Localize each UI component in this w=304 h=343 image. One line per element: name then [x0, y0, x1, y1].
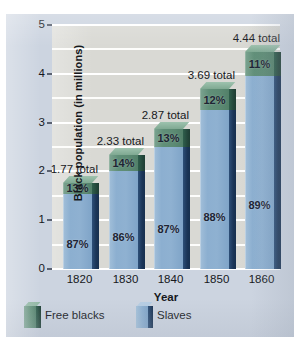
bar-face-side — [92, 183, 99, 194]
swatch-face-front — [24, 306, 36, 328]
y-tick-mark — [47, 122, 52, 124]
bar-label-slaves-percent: 87% — [157, 223, 179, 235]
bar-label-total: 2.87 total — [142, 109, 189, 121]
bar-label-free-blacks-percent: 14% — [112, 157, 134, 169]
bar-face-side — [274, 52, 281, 76]
legend-swatch-icon — [136, 302, 148, 328]
y-tick-label: 1 — [39, 214, 45, 226]
bar-label-free-blacks-percent: 13% — [157, 132, 179, 144]
bar-face-side — [92, 194, 99, 269]
y-tick-mark — [47, 219, 52, 221]
x-tick-label: 1820 — [67, 273, 93, 285]
y-tick-label: 4 — [39, 68, 45, 80]
bar-face-top — [200, 82, 235, 89]
bar-label-slaves-percent: 87% — [66, 238, 88, 250]
y-tick-label: 0 — [39, 263, 45, 275]
bar-face-side — [229, 89, 236, 110]
legend-label: Free blacks — [45, 309, 104, 321]
bar-face-side — [183, 147, 190, 269]
bar-face-top — [245, 45, 280, 52]
y-tick-label: 3 — [39, 117, 45, 129]
bar-label-slaves-percent: 86% — [112, 231, 134, 243]
y-axis-title: Black population (in millions) — [72, 23, 84, 223]
x-tick-label: 1840 — [158, 273, 184, 285]
bar-label-slaves-percent: 88% — [203, 211, 225, 223]
bar-face-side — [138, 155, 145, 171]
x-tick-label: 1850 — [204, 273, 230, 285]
bar-label-free-blacks-percent: 11% — [249, 58, 270, 70]
bar-segment-slaves[interactable] — [245, 76, 274, 269]
x-tick-label: 1830 — [113, 273, 139, 285]
bar-face-top — [154, 122, 189, 129]
legend-swatch-icon — [24, 302, 36, 328]
bar-face-top — [109, 148, 144, 155]
y-tick-mark — [47, 24, 52, 26]
swatch-face-side — [36, 306, 41, 328]
y-tick-mark — [47, 268, 52, 270]
bar-face-side — [183, 129, 190, 147]
legend-item-slaves[interactable]: Slaves — [136, 300, 192, 330]
chart-figure: 012345 13%87%1.77 total14%86%2.33 total1… — [0, 0, 304, 343]
swatch-face-side — [148, 306, 153, 328]
gridline-major — [52, 24, 280, 26]
legend-label: Slaves — [157, 309, 192, 321]
bar-label-total: 2.33 total — [97, 135, 144, 147]
x-tick-label: 1860 — [249, 273, 275, 285]
bar-face-front — [245, 76, 275, 269]
bar-label-slaves-percent: 89% — [248, 199, 270, 211]
bar-segment-slaves[interactable] — [109, 171, 138, 269]
bar-label-free-blacks-percent: 12% — [203, 94, 225, 106]
plot-area: 012345 13%87%1.77 total14%86%2.33 total1… — [52, 25, 280, 269]
bar-face-side — [229, 110, 236, 269]
bar-face-front — [109, 171, 139, 269]
bar-segment-slaves[interactable] — [200, 110, 229, 269]
bar-face-front — [154, 147, 184, 269]
swatch-face-front — [136, 306, 148, 328]
legend-item-free-blacks[interactable]: Free blacks — [24, 300, 104, 330]
bar-face-side — [274, 76, 281, 269]
bar-face-side — [138, 171, 145, 269]
y-tick-mark — [47, 73, 52, 75]
bar-segment-slaves[interactable] — [154, 147, 183, 269]
y-tick-label: 5 — [39, 19, 45, 31]
y-tick-label: 2 — [39, 166, 45, 178]
bar-face-front — [200, 110, 230, 269]
bar-label-total: 3.69 total — [188, 69, 235, 81]
bar-label-total: 4.44 total — [233, 32, 280, 44]
